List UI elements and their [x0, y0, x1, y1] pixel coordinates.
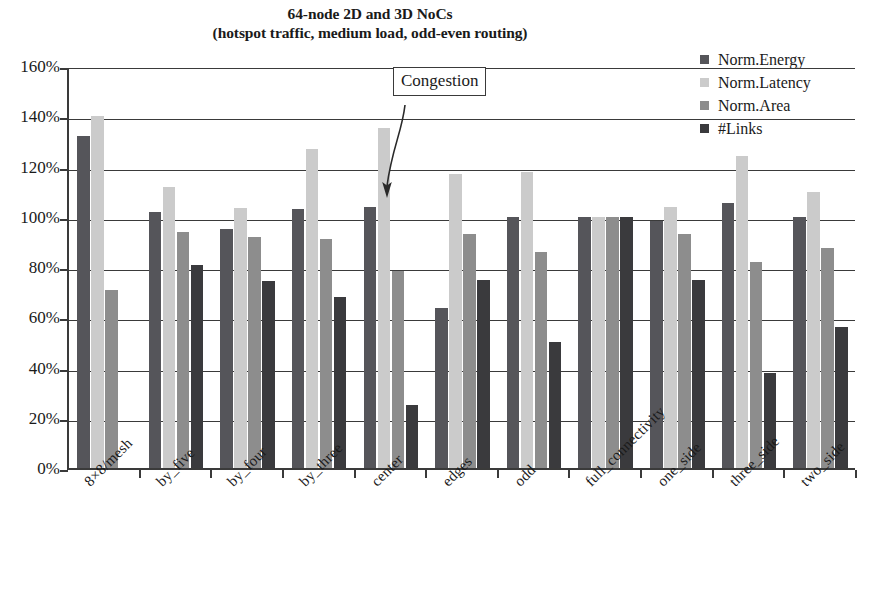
y-axis-tick-label: 40% — [2, 359, 60, 379]
bar-group — [499, 69, 571, 468]
congestion-annotation: Congestion — [393, 67, 486, 96]
bar — [91, 116, 104, 468]
bar — [306, 149, 319, 468]
x-axis-tick-mark — [139, 470, 141, 478]
x-axis-tick-mark — [210, 470, 212, 478]
bar — [292, 209, 305, 468]
bar-group — [785, 69, 857, 468]
bar — [793, 217, 806, 468]
chart-title-line2: (hotspot traffic, medium load, odd-even … — [60, 23, 680, 42]
bar — [149, 212, 162, 468]
y-axis-tick-label: 100% — [2, 208, 60, 228]
x-axis-tick-mark — [640, 470, 642, 478]
bar — [736, 156, 749, 468]
bar — [449, 174, 462, 468]
bar-series-container — [69, 69, 855, 468]
bar — [521, 172, 534, 468]
y-axis-tick-mark — [60, 470, 68, 472]
x-axis-tick-mark — [568, 470, 570, 478]
bar — [163, 187, 176, 468]
y-axis-tick-label: 80% — [2, 258, 60, 278]
bar — [722, 203, 735, 468]
bar — [578, 217, 591, 468]
y-axis-tick-label: 60% — [2, 308, 60, 328]
bar — [435, 308, 448, 468]
chart-title: 64-node 2D and 3D NoCs (hotspot traffic,… — [60, 4, 680, 42]
x-axis-tick-mark — [712, 470, 714, 478]
x-axis-tick-mark — [855, 470, 857, 478]
bar — [678, 234, 691, 468]
bar — [507, 217, 520, 468]
x-axis-tick-mark — [282, 470, 284, 478]
bar — [807, 192, 820, 468]
x-axis-tick-mark — [425, 470, 427, 478]
bar — [477, 280, 490, 468]
bar — [592, 217, 605, 468]
bar — [191, 265, 204, 469]
bar-group — [141, 69, 213, 468]
bar-group — [714, 69, 786, 468]
bar — [664, 207, 677, 468]
x-axis-tick-mark — [783, 470, 785, 478]
bar — [606, 217, 619, 468]
bar-group — [212, 69, 284, 468]
y-axis-tick-label: 120% — [2, 158, 60, 178]
bar — [262, 281, 275, 468]
bar — [549, 342, 562, 468]
bar — [535, 252, 548, 468]
bar — [234, 208, 247, 468]
bar-group — [356, 69, 428, 468]
bar-group — [69, 69, 141, 468]
plot-area — [67, 68, 855, 470]
x-axis-tick-mark — [497, 470, 499, 478]
bar — [364, 207, 377, 468]
bar — [821, 248, 834, 468]
chart-title-line1: 64-node 2D and 3D NoCs — [60, 4, 680, 23]
bar — [750, 262, 763, 468]
bar — [378, 128, 391, 468]
bar — [406, 405, 419, 468]
bar-group — [427, 69, 499, 468]
bar — [320, 239, 333, 468]
bar — [177, 232, 190, 468]
bar-group — [570, 69, 642, 468]
bar — [77, 136, 90, 468]
bar — [105, 290, 118, 468]
bar — [463, 234, 476, 468]
bar — [220, 229, 233, 468]
y-axis-tick-label: 20% — [2, 409, 60, 429]
y-axis-tick-label: 160% — [2, 57, 60, 77]
x-axis-tick-mark — [354, 470, 356, 478]
legend-swatch-icon — [700, 55, 709, 64]
bar — [392, 271, 405, 468]
y-axis-tick-label: 140% — [2, 107, 60, 127]
legend-label: Norm.Energy — [718, 51, 805, 69]
bar — [248, 237, 261, 468]
chart-figure: 64-node 2D and 3D NoCs (hotspot traffic,… — [0, 0, 876, 616]
y-axis-tick-label: 0% — [2, 459, 60, 479]
bar-group — [284, 69, 356, 468]
